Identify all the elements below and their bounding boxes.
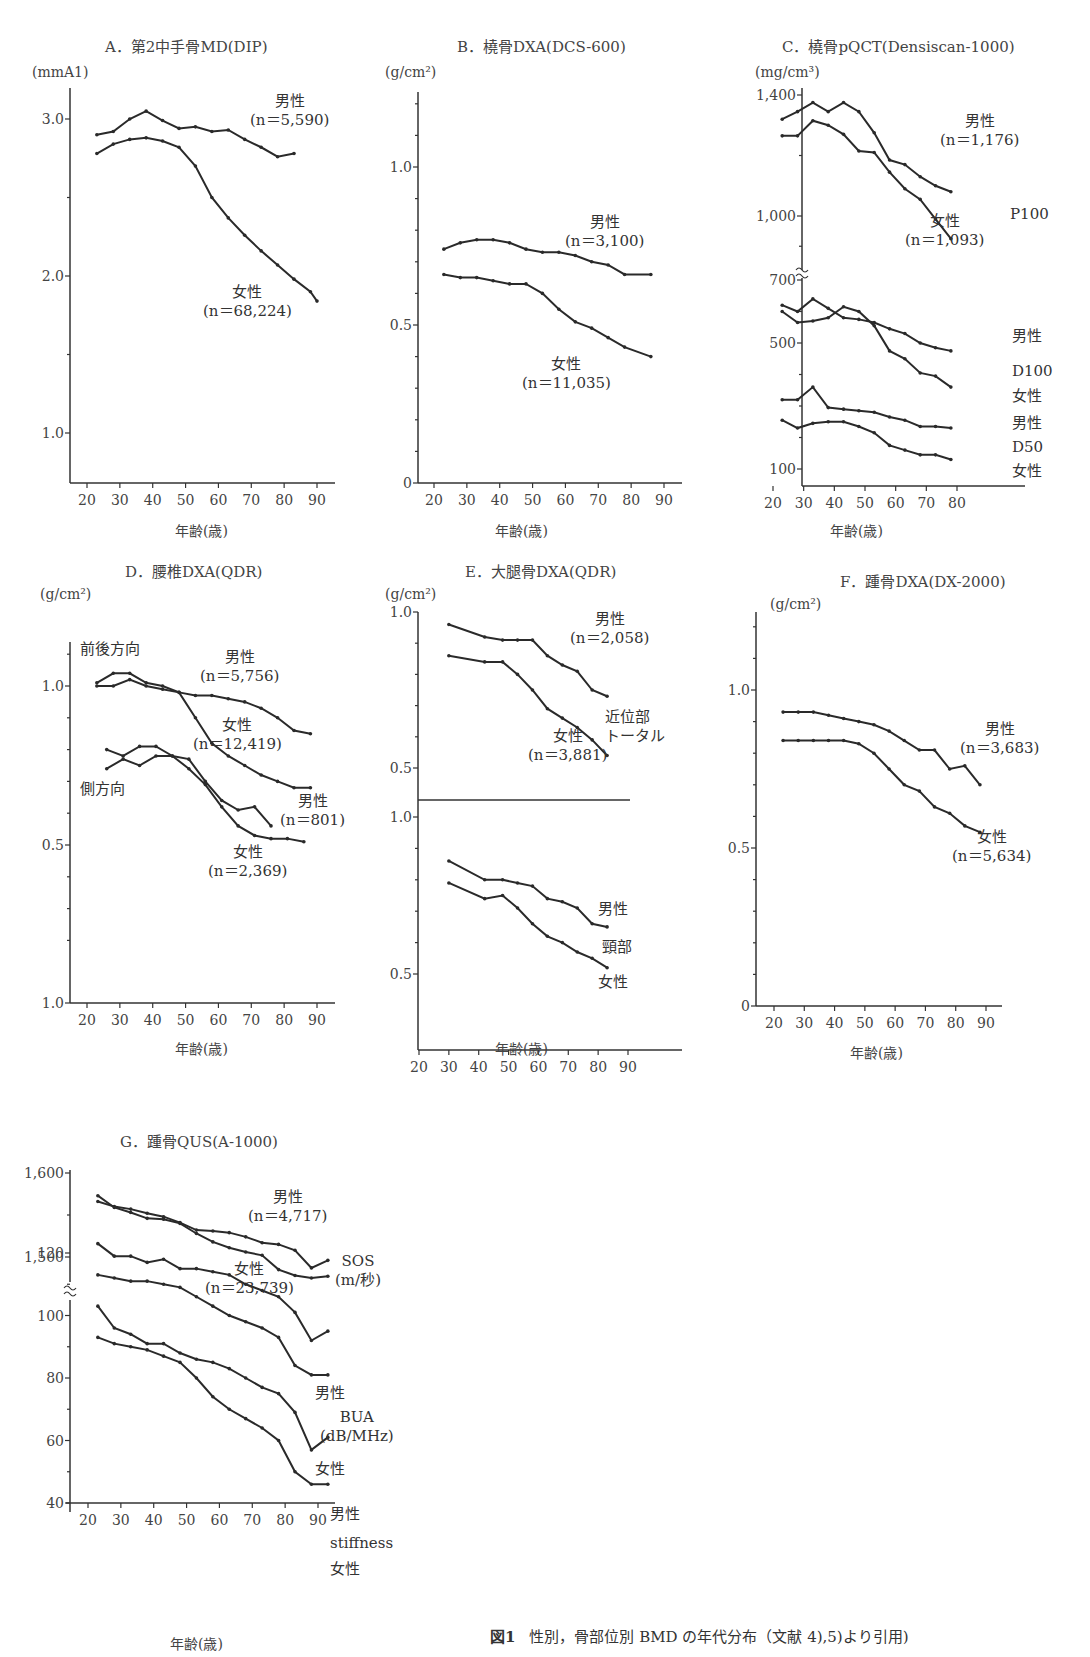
sos-unit: (m/秒) [335,1271,381,1289]
total-label: トータル [605,727,665,745]
svg-text:50: 50 [856,1015,874,1031]
male-label: 男性 [595,610,625,628]
panel-c-female-d50-label: 女性 [1012,462,1042,481]
female-label: 女性 [232,283,262,301]
svg-text:70: 70 [242,1012,260,1028]
svg-text:40: 40 [825,495,843,511]
svg-text:50: 50 [177,1012,195,1028]
panel-g-bua-label: BUA(dB/MHz) [320,1408,394,1446]
svg-text:80: 80 [589,1059,607,1075]
svg-text:1.0: 1.0 [728,682,750,698]
panel-f-plot: 203040506070809000.51.0 [730,560,1090,1060]
panel-b-female-label: 女性(n＝11,035) [522,355,611,393]
panel-c-female-d100-label: 女性 [1012,387,1042,406]
svg-text:1.0: 1.0 [390,809,412,825]
male-label: 男性 [985,720,1015,738]
panel-f-female-label: 女性(n＝5,634) [952,828,1031,866]
panel-g-female-stiff-label: 女性 [330,1560,360,1579]
svg-text:80: 80 [46,1370,64,1386]
svg-text:90: 90 [309,1512,327,1528]
panel-d-female-lat-label: 女性(n＝2,369) [208,843,287,881]
panel-e-female-total-label: 女性(n＝3,881) [528,727,607,765]
svg-text:0.5: 0.5 [390,317,412,333]
figure-caption-text: 性別，骨部位別 BMD の年代分布（文献 4),5)より引用) [529,1628,908,1646]
svg-text:0.5: 0.5 [390,760,412,776]
svg-text:70: 70 [589,492,607,508]
svg-text:20: 20 [79,1512,97,1528]
svg-text:40: 40 [46,1495,64,1511]
panel-c-p100-label: P100 [1010,205,1049,224]
panel-g-sos-label: SOS(m/秒) [335,1252,381,1290]
female-label: 女性 [977,828,1007,846]
svg-text:60: 60 [210,492,228,508]
male-n: n＝3,683 [966,739,1034,757]
svg-text:60: 60 [530,1059,548,1075]
female-label: 女性 [553,727,583,745]
svg-text:50: 50 [524,492,542,508]
panel-d-male-ap-label: 男性(n＝5,756) [200,648,279,686]
sos-label: SOS [342,1252,375,1270]
svg-text:40: 40 [491,492,509,508]
svg-text:30: 30 [440,1059,458,1075]
svg-text:60: 60 [886,1015,904,1031]
panel-e-male-neck-label: 男性 [598,900,628,919]
male-n: n＝4,717 [254,1207,322,1225]
bua-label: BUA [340,1408,374,1426]
svg-text:120: 120 [37,1245,64,1261]
svg-text:100: 100 [37,1308,64,1324]
svg-text:40: 40 [145,1512,163,1528]
svg-text:1.0: 1.0 [42,678,64,694]
svg-text:40: 40 [826,1015,844,1031]
svg-text:90: 90 [619,1059,637,1075]
panel-c-male-p100-label: 男性(n＝1,176) [940,112,1019,150]
svg-text:40: 40 [144,1012,162,1028]
female-label: 女性 [930,212,960,230]
panel-g-female-bua-label: 女性 [315,1460,345,1479]
svg-text:70: 70 [917,495,935,511]
panel-d-female-ap-label: 女性(n＝12,419) [193,716,282,754]
svg-text:70: 70 [559,1059,577,1075]
svg-text:80: 80 [947,1015,965,1031]
svg-text:90: 90 [308,1012,326,1028]
panel-e-female-neck-label: 女性 [598,973,628,992]
panel-b-xlabel: 年齢(歳) [495,520,548,540]
female-label: 女性 [222,716,252,734]
svg-text:70: 70 [243,1512,261,1528]
panel-d-xlabel: 年齢(歳) [175,1038,228,1058]
svg-text:50: 50 [856,495,874,511]
male-n: n＝801 [286,811,339,829]
svg-text:90: 90 [308,492,326,508]
panel-e: E．大腿骨DXA(QDR) (g/cm²) 20304050607080901.… [360,560,710,1060]
panel-d: D．腰椎DXA(QDR) (g/cm²) 20304050607080900.5… [0,560,360,1060]
male-label: 男性 [275,92,305,110]
panel-f-xlabel: 年齢(歳) [850,1042,903,1062]
panel-e-male-total-label: 男性(n＝2,058) [570,610,649,648]
svg-text:20: 20 [78,492,96,508]
svg-text:0.5: 0.5 [728,840,750,856]
male-n: n＝5,756 [206,667,274,685]
svg-text:50: 50 [177,492,195,508]
svg-text:30: 30 [458,492,476,508]
svg-text:1,400: 1,400 [756,87,796,103]
svg-text:50: 50 [500,1059,518,1075]
male-label: 男性 [225,648,255,666]
svg-text:80: 80 [948,495,966,511]
female-label: 女性 [551,355,581,373]
male-n: n＝2,058 [576,629,644,647]
svg-text:80: 80 [622,492,640,508]
panel-a-male-label: 男性(n＝5,590) [250,92,329,130]
svg-text:60: 60 [46,1433,64,1449]
male-n: n＝3,100 [571,232,639,250]
svg-text:60: 60 [887,495,905,511]
panel-d-lat-label: 側方向 [80,780,125,799]
male-n: n＝5,590 [256,111,324,129]
female-n: n＝11,035 [528,374,605,392]
svg-text:20: 20 [410,1059,428,1075]
svg-text:1,600: 1,600 [24,1165,64,1181]
panel-d-male-lat-label: 男性(n＝801) [280,792,345,830]
panel-e-total-label: 近位部トータル [605,708,665,746]
svg-text:1.0: 1.0 [390,159,412,175]
svg-text:80: 80 [275,492,293,508]
female-n: n＝1,093 [911,231,979,249]
panel-g-male-sos-label: 男性(n＝4,717) [248,1188,327,1226]
